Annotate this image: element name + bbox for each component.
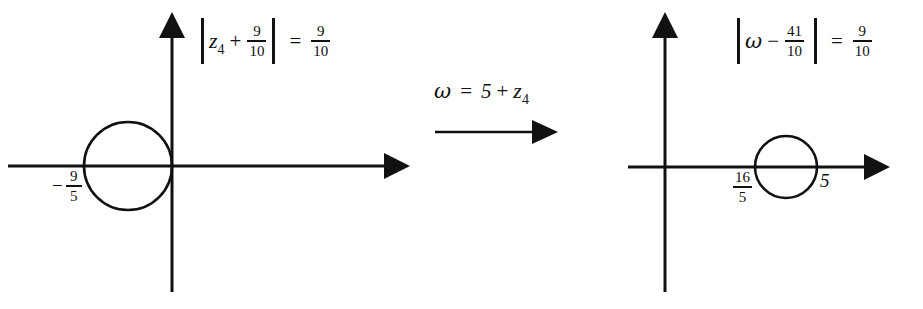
equation-rhs-fraction: 9 10	[311, 23, 330, 59]
mapping-arrowhead-icon	[532, 120, 558, 144]
equation-equals: =	[831, 31, 843, 52]
equation-variable: ω	[745, 31, 762, 52]
x-axis-arrowhead-icon	[864, 154, 890, 180]
equation-rhs-fraction: 9 10	[853, 23, 872, 59]
equation-variable: z4	[209, 30, 225, 52]
omega-plane-panel: ω − 41 10 = 9 10 16 5 5	[600, 0, 923, 309]
equation-operator: −	[767, 31, 779, 52]
omega-plane-tick-label-left: 16 5	[732, 169, 753, 205]
z-plane-panel: z4 + 9 10 = 9 10 − 9 5	[0, 0, 420, 309]
x-axis-arrowhead-icon	[384, 153, 410, 179]
equation-operator: +	[230, 31, 242, 52]
y-axis-arrowhead-icon	[652, 12, 678, 38]
equation-lhs-fraction: 9 10	[247, 23, 266, 59]
abs-bar-open-icon	[737, 18, 740, 64]
abs-bar-open-icon	[201, 18, 204, 64]
omega-plane-equation: ω − 41 10 = 9 10	[732, 18, 873, 64]
equation-lhs-fraction: 41 10	[785, 23, 804, 59]
tick-fraction: 9 5	[66, 168, 82, 204]
mapping-panel: ω = 5 + z4	[420, 0, 600, 309]
complex-plane-figure: z4 + 9 10 = 9 10 − 9 5	[0, 0, 923, 309]
equation-equals: =	[289, 31, 301, 52]
omega-plane-tick-label-right: 5	[820, 171, 830, 190]
mapping-arrow	[420, 0, 600, 309]
z-plane-equation: z4 + 9 10 = 9 10	[196, 18, 331, 64]
abs-bar-close-icon	[814, 18, 817, 64]
z-plane-tick-label: − 9 5	[52, 168, 83, 204]
tick-fraction: 16 5	[733, 169, 752, 205]
y-axis-arrowhead-icon	[159, 12, 185, 38]
abs-bar-close-icon	[272, 18, 275, 64]
